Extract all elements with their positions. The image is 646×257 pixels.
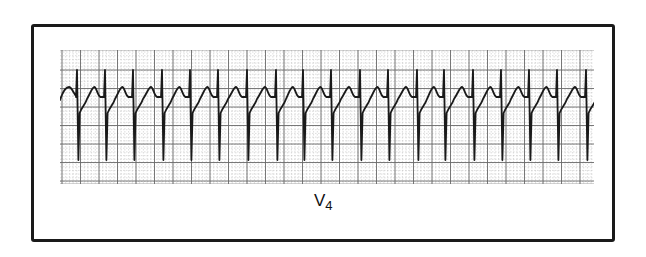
lead-label-letter: V <box>314 191 325 210</box>
grid-major-lines <box>60 50 594 184</box>
lead-label: V4 <box>314 192 333 212</box>
ecg-trace-svg <box>60 50 594 184</box>
lead-label-subscript: 4 <box>325 198 332 213</box>
ecg-strip <box>60 50 594 184</box>
